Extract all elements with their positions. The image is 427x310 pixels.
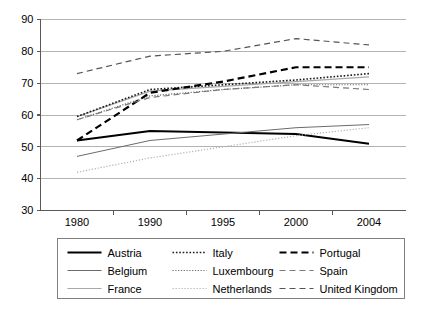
x-tick-label-1995: 1995 xyxy=(211,216,235,228)
x-tick-label-1980: 1980 xyxy=(65,216,89,228)
legend-label-france: France xyxy=(108,283,142,295)
y-tick-label-30: 30 xyxy=(21,204,33,216)
y-tick-label-90: 90 xyxy=(21,13,33,25)
legend-label-united-kingdom: United Kingdom xyxy=(320,283,398,295)
y-tick-label-40: 40 xyxy=(21,172,33,184)
legend-label-italy: Italy xyxy=(213,247,234,259)
y-tick-label-60: 60 xyxy=(21,109,33,121)
y-tick-label-70: 70 xyxy=(21,77,33,89)
chart-container: 30405060708090 19801990199520002004 Aust… xyxy=(0,0,427,310)
legend-label-spain: Spain xyxy=(320,265,348,277)
legend-label-austria: Austria xyxy=(108,247,143,259)
x-tick-label-2000: 2000 xyxy=(284,216,308,228)
legend-label-luxembourg: Luxembourg xyxy=(213,265,274,277)
legend-label-portugal: Portugal xyxy=(320,247,361,259)
legend-label-belgium: Belgium xyxy=(108,265,148,277)
line-chart: 30405060708090 19801990199520002004 Aust… xyxy=(0,0,427,310)
y-tick-label-80: 80 xyxy=(21,45,33,57)
y-tick-label-50: 50 xyxy=(21,141,33,153)
chart-legend: AustriaItalyPortugalBelgiumLuxembourgSpa… xyxy=(58,239,405,299)
legend-label-netherlands: Netherlands xyxy=(213,283,273,295)
x-tick-label-1990: 1990 xyxy=(138,216,162,228)
x-tick-label-2004: 2004 xyxy=(357,216,381,228)
